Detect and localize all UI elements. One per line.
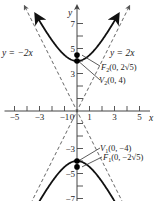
branch-arrow	[37, 17, 40, 21]
x-tick-label: 1	[87, 112, 92, 122]
x-tick-label: 0	[70, 112, 75, 122]
y-tick-label: −3	[65, 144, 75, 154]
leader-v1	[78, 148, 100, 161]
point-v2	[74, 58, 80, 64]
x-axis-label: x	[148, 113, 154, 123]
y-tick-label: 5	[71, 44, 76, 54]
point-label-f2: F2(0, 2√5)	[100, 62, 137, 73]
y-axis-label: y	[67, 8, 73, 18]
hyperbola-diagram: y = −2x y = 2x y x −5−3−10135753−3−5−7F2…	[0, 0, 158, 201]
x-tick-label: −5	[10, 112, 20, 122]
y-tick-label: −7	[65, 194, 75, 202]
y-tick-label: −5	[65, 169, 75, 179]
x-tick-label: −1	[60, 112, 70, 122]
axes-group	[5, 7, 151, 201]
asymptote-label-negative: y = −2x	[1, 48, 34, 58]
point-f2	[74, 52, 80, 58]
x-tick-label: −3	[35, 112, 45, 122]
x-tick-label: 5	[137, 112, 142, 122]
asymptote-label-positive: y = 2x	[109, 48, 135, 58]
point-label-v2: V2(0, 4)	[99, 75, 126, 86]
leader-f2	[82, 55, 100, 66]
y-tick-label: 3	[71, 69, 76, 79]
branch-arrow	[115, 17, 118, 21]
point-label-f1: F1(0, −2√5)	[102, 152, 143, 163]
point-f1	[74, 164, 80, 170]
leader-f1	[82, 157, 102, 167]
y-tick-label: 7	[71, 19, 76, 29]
point-v1	[74, 158, 80, 164]
x-tick-label: 3	[112, 112, 117, 122]
